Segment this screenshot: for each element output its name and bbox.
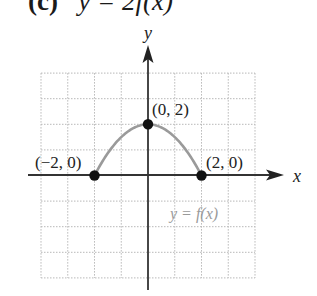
x-axis-label: x bbox=[292, 166, 301, 186]
figure: (c) y = 2f(x) x y (0, 2) (−2, 0) (2, 0) … bbox=[0, 0, 317, 296]
curve-label: y = f(x) bbox=[168, 205, 218, 223]
point-marker bbox=[89, 170, 99, 180]
y-axis-label: y bbox=[142, 23, 152, 43]
y-axis bbox=[143, 45, 154, 290]
plot: x y (0, 2) (−2, 0) (2, 0) y = f(x) bbox=[0, 0, 317, 296]
point-label-right: (2, 0) bbox=[206, 153, 243, 172]
point-marker bbox=[143, 119, 153, 129]
point-label-top: (0, 2) bbox=[152, 100, 189, 119]
point-label-left: (−2, 0) bbox=[35, 153, 81, 172]
